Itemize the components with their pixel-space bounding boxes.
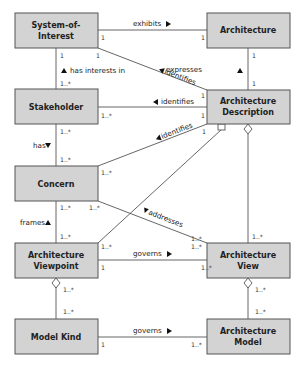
arrow-right-icon (167, 251, 172, 257)
multiplicity: 1..* (60, 233, 71, 240)
multiplicity: 1 (201, 34, 205, 41)
aggregation-diamond-icon (52, 278, 60, 288)
box-label: Description (222, 108, 274, 117)
aggregation-diamond-icon (244, 278, 252, 288)
multiplicity: 1 (201, 92, 205, 99)
box-label: Interest (38, 32, 74, 41)
multiplicity: 1..* (63, 286, 74, 293)
box-label: Model Kind (31, 333, 82, 342)
multiplicity: 1..* (89, 204, 100, 211)
relation-label-governs: governs (133, 326, 162, 335)
multiplicity: 1..* (60, 204, 71, 211)
multiplicity: 1..* (60, 128, 71, 135)
multiplicity: 1 (201, 112, 205, 119)
box-label: Architecture (220, 251, 277, 260)
box-architecture-model: Architecture Model (207, 319, 290, 354)
relation-label-has-interests-in: has interests in (70, 66, 125, 75)
uml-diagram: System-of- Interest Architecture Stakeho… (0, 0, 304, 369)
multiplicity: 1..* (101, 169, 112, 176)
multiplicity: 1..* (255, 286, 266, 293)
box-architecture-viewpoint: Architecture Viewpoint (15, 243, 98, 278)
multiplicity: 1..* (191, 341, 202, 348)
box-label: Stakeholder (29, 103, 84, 112)
multiplicity: 1 (202, 128, 206, 135)
multiplicity: 1..* (101, 243, 112, 250)
multiplicity: 1 (101, 341, 105, 348)
box-label: Model (234, 338, 262, 347)
multiplicity: 1..* (191, 235, 202, 242)
multiplicity: 1..* (60, 156, 71, 163)
multiplicity: 1 (60, 52, 64, 59)
arrow-down-icon (45, 143, 51, 148)
multiplicity: 1..* (191, 243, 202, 250)
multiplicity: 1..* (101, 112, 112, 119)
arrow-up-icon (237, 68, 243, 73)
box-label: System-of- (32, 21, 81, 30)
multiplicity: 1..* (63, 308, 74, 315)
arrow-left-icon (153, 99, 158, 105)
relation-label-identifies: identifies (160, 120, 194, 140)
box-label: Concern (38, 180, 75, 189)
relation-label-frames: frames (20, 218, 45, 227)
box-label: Architecture (220, 97, 277, 106)
ad-viewpoint-line (98, 129, 222, 243)
box-label: Architecture (220, 327, 277, 336)
relation-label-expresses: expresses (166, 65, 202, 74)
box-label: Architecture (220, 26, 277, 35)
arrow-right-icon (167, 328, 172, 334)
relation-label-addresses: addresses (147, 208, 184, 230)
composition-square-icon (218, 124, 225, 130)
arrow-right-icon (166, 21, 171, 27)
arrow-up-icon (45, 220, 51, 225)
multiplicity: 1 (96, 52, 100, 59)
multiplicity: 1..* (201, 264, 212, 271)
relation-label-governs: governs (133, 249, 162, 258)
multiplicity: 1..* (255, 308, 266, 315)
multiplicity: 1 (252, 52, 256, 59)
box-label: Architecture (28, 251, 85, 260)
relation-label-identifies: identifies (161, 97, 194, 106)
box-concern: Concern (15, 166, 98, 201)
box-stakeholder: Stakeholder (15, 89, 98, 124)
box-system-of-interest: System-of- Interest (15, 13, 98, 48)
box-architecture: Architecture (207, 13, 290, 48)
identifies-concern-line (98, 124, 207, 166)
box-architecture-view: Architecture View (207, 243, 290, 278)
arrow-up-icon (61, 68, 67, 73)
relation-label-exhibits: exhibits (133, 19, 161, 28)
multiplicity: 1 (252, 80, 256, 87)
box-label: Viewpoint (33, 262, 78, 271)
box-model-kind: Model Kind (15, 319, 98, 354)
multiplicity: 1..* (60, 80, 71, 87)
multiplicity: 1 (101, 34, 105, 41)
relation-label-has: has (33, 141, 46, 150)
multiplicity: 1..* (252, 233, 263, 240)
aggregation-diamond-icon (244, 124, 252, 134)
box-architecture-description: Architecture Description (207, 90, 290, 124)
multiplicity: 1 (101, 264, 105, 271)
box-label: View (237, 262, 259, 271)
